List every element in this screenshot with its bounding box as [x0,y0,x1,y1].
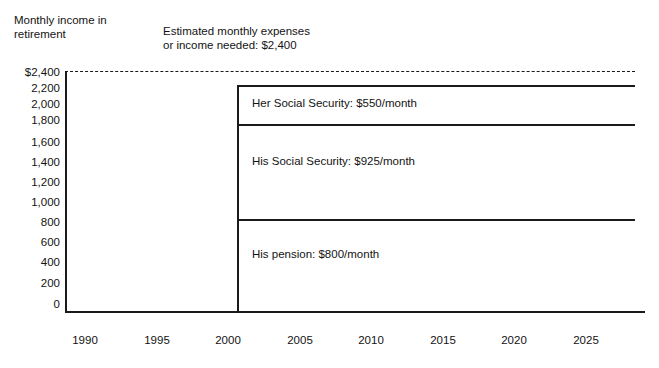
y-tick-1400: 1,400 [4,156,60,168]
y-tick-1200: 1,200 [4,176,60,188]
target-income-dashed-line [65,71,635,72]
y-tick-2400: $2,400 [4,66,60,78]
her-social-security-label: Her Social Security: $550/month [252,97,417,110]
y-axis-line [65,71,67,313]
y-tick-2200: 2,200 [4,82,60,94]
his-pension-top-line [237,219,635,221]
y-tick-600: 600 [4,236,60,248]
y-tick-1600: 1,600 [4,136,60,148]
y-tick-800: 800 [4,216,60,228]
y-tick-200: 200 [4,277,60,289]
y-tick-400: 400 [4,256,60,268]
x-tick-2000: 2000 [198,334,258,346]
x-tick-2020: 2020 [484,334,544,346]
y-tick-0: 0 [4,298,60,310]
x-tick-1990: 1990 [55,334,115,346]
y-tick-1000: 1,000 [4,196,60,208]
his-social-security-top-line [237,124,635,126]
his-pension-label: His pension: $800/month [252,248,379,261]
chart-canvas: Monthly income in retirement Estimated m… [0,0,659,368]
her-social-security-top-line [237,85,635,87]
x-tick-2010: 2010 [341,334,401,346]
x-axis-line [65,311,645,313]
x-tick-2015: 2015 [413,334,473,346]
x-tick-1995: 1995 [127,334,187,346]
his-social-security-label: His Social Security: $925/month [252,155,415,168]
target-annotation: Estimated monthly expenses or income nee… [163,25,310,52]
y-tick-2000: 2,000 [4,98,60,110]
x-tick-2025: 2025 [556,334,616,346]
stack-left-edge [237,85,239,312]
y-axis-title: Monthly income in retirement [14,14,107,41]
x-tick-2005: 2005 [270,334,330,346]
y-tick-1800: 1,800 [4,114,60,126]
